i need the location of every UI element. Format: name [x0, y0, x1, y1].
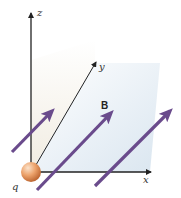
x-axis-label: x — [143, 174, 149, 185]
y-axis-label: y — [98, 61, 105, 72]
field-label-B: B — [101, 100, 108, 111]
charge-sphere — [21, 162, 41, 182]
charge-label: q — [12, 181, 18, 192]
z-axis-label: z — [36, 7, 43, 18]
magnetic-field-diagram: z x y B q — [0, 0, 181, 198]
